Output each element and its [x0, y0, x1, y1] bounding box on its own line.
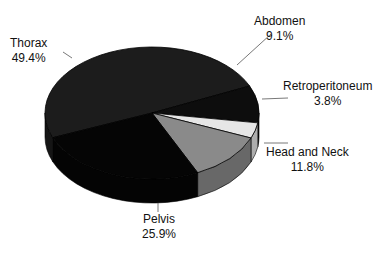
label-head-and-neck: Head and Neck 11.8% — [266, 145, 349, 175]
label-retroperitoneum-value: 3.8% — [283, 94, 372, 109]
label-retroperitoneum-name: Retroperitoneum — [283, 79, 372, 94]
label-abdomen-name: Abdomen — [254, 14, 305, 29]
label-head-and-neck-name: Head and Neck — [266, 145, 349, 160]
label-retroperitoneum: Retroperitoneum 3.8% — [283, 79, 372, 109]
label-pelvis: Pelvis 25.9% — [142, 212, 176, 242]
label-abdomen: Abdomen 9.1% — [254, 14, 305, 44]
label-thorax: Thorax 49.4% — [10, 36, 47, 66]
label-pelvis-value: 25.9% — [142, 227, 176, 242]
label-thorax-value: 49.4% — [10, 51, 47, 66]
label-head-and-neck-value: 11.8% — [266, 160, 349, 175]
label-abdomen-value: 9.1% — [254, 29, 305, 44]
label-pelvis-name: Pelvis — [142, 212, 176, 227]
label-thorax-name: Thorax — [10, 36, 47, 51]
pie-chart — [0, 0, 387, 259]
leader-line-thorax — [63, 52, 72, 58]
